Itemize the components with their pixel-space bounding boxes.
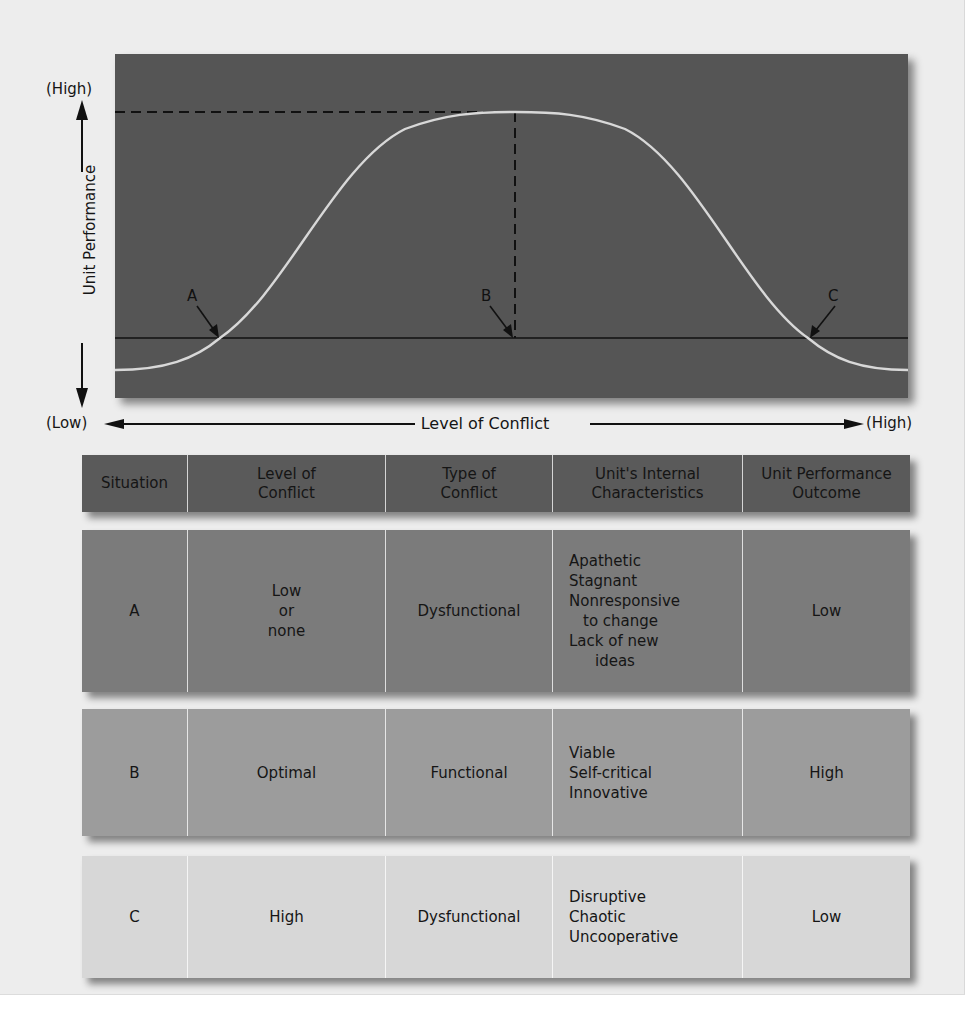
cell-outcome: Low	[743, 856, 910, 978]
point-b-label: B	[481, 287, 491, 305]
point-c-label: C	[828, 287, 838, 305]
x-axis-high-label: (High)	[866, 414, 912, 432]
cell-characteristics: Disruptive Chaotic Uncooperative	[553, 856, 743, 978]
cell-characteristics: Apathetic Stagnant Nonresponsive to chan…	[553, 530, 743, 692]
cell-situation: C	[82, 856, 188, 978]
cell-situation: A	[82, 530, 188, 692]
y-axis-high-label: (High)	[46, 80, 92, 98]
table-header-row: Situation Level ofConflict Type ofConfli…	[82, 455, 910, 512]
x-axis-title: Level of Conflict	[0, 414, 970, 433]
header-performance-outcome: Unit PerformanceOutcome	[743, 455, 910, 512]
cell-level: Optimal	[188, 709, 386, 836]
cell-level: High	[188, 856, 386, 978]
table-row-c: C High Dysfunctional Disruptive Chaotic …	[82, 856, 910, 978]
arrow-down-icon	[76, 388, 88, 408]
bell-curve-plot: A B C	[115, 54, 908, 398]
cell-characteristics: Viable Self-critical Innovative	[553, 709, 743, 836]
point-a-label: A	[187, 287, 198, 305]
cell-outcome: High	[743, 709, 910, 836]
cell-type: Dysfunctional	[386, 856, 553, 978]
header-level-of-conflict: Level ofConflict	[188, 455, 386, 512]
y-axis-title-text: Unit Performance	[81, 165, 99, 295]
header-type-of-conflict: Type ofConflict	[386, 455, 553, 512]
arrow-up-icon	[76, 100, 88, 120]
cell-level: Lowornone	[188, 530, 386, 692]
header-internal-characteristics: Unit's InternalCharacteristics	[553, 455, 743, 512]
figure-page: (High) Unit Performance A B C	[0, 0, 965, 995]
header-situation: Situation	[82, 455, 188, 512]
x-axis-title-text: Level of Conflict	[415, 414, 556, 433]
cell-type: Functional	[386, 709, 553, 836]
table-row-b: B Optimal Functional Viable Self-critica…	[82, 709, 910, 836]
cell-situation: B	[82, 709, 188, 836]
table-row-a: A Lowornone Dysfunctional Apathetic Stag…	[82, 530, 910, 692]
chart-panel: A B C	[115, 54, 908, 398]
cell-type: Dysfunctional	[386, 530, 553, 692]
cell-outcome: Low	[743, 530, 910, 692]
